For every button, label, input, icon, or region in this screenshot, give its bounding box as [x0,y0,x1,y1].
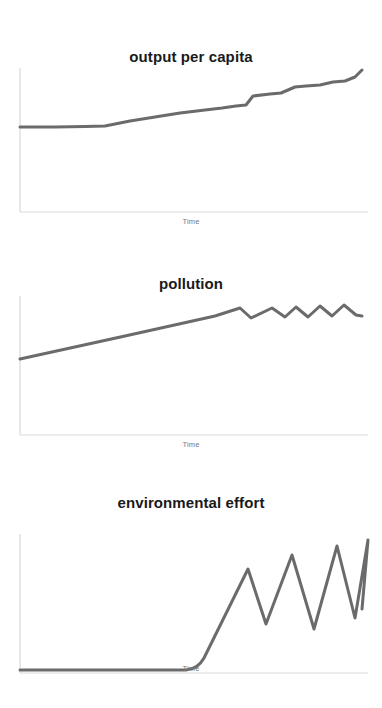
plot-area: Time [0,293,382,463]
chart-pollution: pollution Time [0,258,382,490]
plot-svg-output-per-capita [0,66,382,236]
chart-title: environmental effort [0,494,382,512]
x-axis-label: Time [0,440,382,449]
data-line-environmental-effort [20,540,368,670]
chart-title: output per capita [0,48,382,66]
plot-svg-environmental-effort [0,512,382,684]
x-axis-label: Time [0,664,382,673]
chart-environmental-effort: environmental effort Time [0,482,382,708]
plot-svg-pollution [0,293,382,463]
plot-area: Time [0,66,382,236]
data-line-output-per-capita [20,70,362,127]
plot-area: Time [0,512,382,684]
chart-output-per-capita: output per capita Time [0,22,382,254]
chart-title: pollution [0,275,382,293]
x-axis-label: Time [0,217,382,226]
figure-page: output per capita Time pollution Time en… [0,0,382,708]
data-line-pollution [20,305,362,359]
